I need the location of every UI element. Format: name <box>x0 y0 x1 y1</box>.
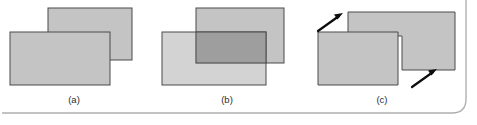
panel-b-label: (b) <box>221 94 233 105</box>
panel-b-overlap-region <box>196 32 266 63</box>
panel-a-front-rectangle <box>10 32 110 85</box>
panel-c-label: (c) <box>376 94 387 105</box>
panel-c-lower-piece <box>318 32 398 85</box>
rectangle-boolean-operations-figure: (a) (b) (c) <box>0 0 477 125</box>
figure-container: (a) (b) (c) <box>0 0 477 125</box>
panel-a-label: (a) <box>68 94 80 105</box>
